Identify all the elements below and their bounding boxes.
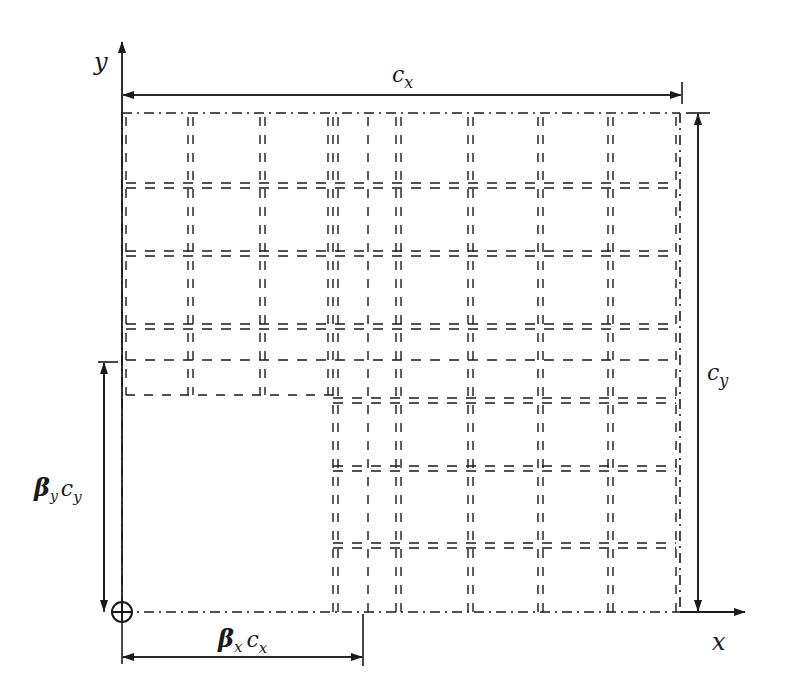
dimension-beta-x-cx [122,614,363,666]
origin-icon [112,602,132,622]
lower-horizontal-grid [333,398,676,548]
right-panel-grid [333,117,676,612]
y-axis-label: y [93,48,108,76]
label-cx: cx [392,62,413,92]
label-beta-y-cy: βycy [33,473,82,506]
dimension-beta-y-cy [98,362,118,612]
label-cy: cy [707,360,729,390]
axes [122,42,745,612]
cutout-grid-diagram: cx cy βycy βxcx y x [0,0,786,697]
label-beta-x-cx: βxcx [217,624,268,657]
x-axis-label: x [712,628,726,656]
